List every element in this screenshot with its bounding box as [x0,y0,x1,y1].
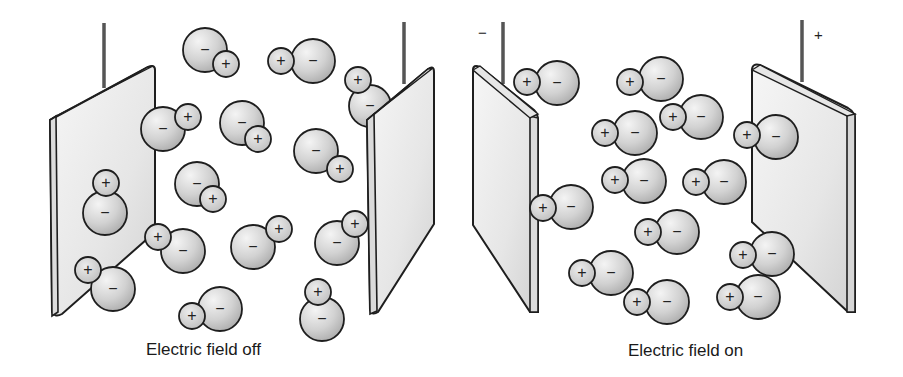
minus-sign: − [606,264,615,281]
minus-sign: − [552,74,561,91]
dipole-molecule: −+ [602,159,666,203]
plus-sign: + [725,288,734,305]
minus-sign: − [753,288,762,305]
minus-sign: − [566,198,575,215]
minus-sign: − [317,310,326,327]
dipole-molecule: −+ [624,280,689,324]
caption-field-on: Electric field on [628,341,743,361]
dipole-molecule: −+ [660,95,723,139]
dipole-molecule: −+ [268,39,335,83]
plus-sign: + [274,220,283,237]
positive-terminal-label: + [814,26,823,43]
dipole-molecule: −+ [183,28,239,77]
minus-sign: − [215,300,224,317]
plus-sign: + [643,223,652,240]
plus-sign: + [276,52,285,69]
plus-sign: + [313,283,322,300]
dipole-molecule: −+ [617,57,683,101]
plus-sign: + [101,174,110,191]
plus-sign: + [83,261,92,278]
plus-sign: + [632,293,641,310]
minus-sign: − [672,223,681,240]
dipole-molecule: −+ [717,275,780,319]
dipole-molecule: −+ [179,287,242,331]
dipole-molecule: −+ [141,104,201,151]
minus-sign: − [100,204,109,221]
electrode-plate-negative [473,66,538,312]
minus-sign: − [200,41,209,58]
plus-sign: + [538,199,547,216]
minus-sign: − [365,97,374,114]
minus-sign: − [192,175,201,192]
electrolyte-figure: −+−+−+−+−+−+−+−+−+−+−+−+−+−+ −+−+−+−+−+−… [0,0,903,377]
minus-sign: − [719,173,728,190]
minus-sign: − [108,280,117,297]
minus-sign: − [662,293,671,310]
dipole-molecule: −+ [592,111,657,155]
minus-sign: − [237,114,246,131]
dipole-molecule: −+ [514,61,579,105]
plus-sign: + [668,108,677,125]
plus-sign: + [221,55,230,72]
minus-sign: − [311,142,320,159]
dipole-molecule: −+ [145,224,205,273]
dipole-molecule: −+ [220,101,271,152]
dipole-molecule: −+ [231,216,292,269]
plus-sign: + [522,73,531,90]
dipole-molecule: −+ [635,210,699,254]
plus-sign: + [153,228,162,245]
negative-terminal-label: − [478,24,487,41]
minus-sign: − [696,108,705,125]
dipole-molecule: −+ [683,160,746,204]
plus-sign: + [742,126,751,143]
dipole-molecule: −+ [730,232,794,276]
plus-sign: + [600,124,609,141]
dipole-molecule: −+ [530,185,593,229]
plus-sign: + [691,173,700,190]
plus-sign: + [625,73,634,90]
plus-sign: + [253,130,262,147]
plus-sign: + [187,307,196,324]
plus-sign: + [738,246,747,263]
dipole-molecule: −+ [175,162,226,212]
minus-sign: − [767,245,776,262]
minus-sign: − [158,120,167,137]
plus-sign: + [183,108,192,125]
caption-field-off: Electric field off [146,340,261,360]
dipole-molecule: −+ [734,115,798,159]
dipole-molecule: −+ [300,279,344,341]
plus-sign: + [208,190,217,207]
minus-sign: − [639,172,648,189]
dipole-molecule: −+ [315,211,368,265]
minus-sign: − [771,128,780,145]
minus-sign: − [178,242,187,259]
minus-sign: − [332,234,341,251]
plus-sign: + [610,171,619,188]
plus-sign: + [577,264,586,281]
minus-sign: − [656,70,665,87]
minus-sign: − [630,124,639,141]
minus-sign: − [308,52,317,69]
minus-sign: − [248,238,257,255]
plus-sign: + [353,71,362,88]
dipole-molecule: −+ [294,129,353,182]
plus-sign: + [335,160,344,177]
plus-sign: + [350,215,359,232]
dipole-molecule: −+ [569,251,633,295]
